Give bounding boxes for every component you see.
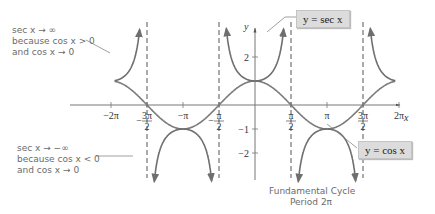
x-tick-label: 2π: [394, 110, 404, 121]
annot-line: and cos x → 0: [17, 165, 100, 176]
annot-line: because cos x > 0: [12, 36, 95, 47]
x-tick-denominator: 2: [289, 121, 294, 132]
legend-cos: y = cos x: [358, 141, 412, 159]
x-tick-denominator: 2: [145, 121, 150, 132]
annotation-sec-positive: sec x → ∞ because cos x > 0 and cos x → …: [12, 25, 95, 58]
annot-line: Fundamental Cycle: [269, 186, 353, 197]
x-tick-label: π: [324, 110, 329, 121]
y-tick-label: −1: [238, 124, 249, 135]
annot-line: because cos x < 0: [17, 154, 100, 165]
x-axis-label: x: [403, 112, 409, 123]
annot-line: and cos x → 0: [12, 47, 95, 58]
sec-branch: [298, 129, 355, 181]
leader-cos: [327, 124, 357, 148]
annotation-sec-negative: sec x → −∞ because cos x < 0 and cos x →…: [17, 143, 100, 176]
x-tick-denominator: 2: [217, 121, 222, 132]
leader-sec: [267, 17, 296, 32]
sec-branch: [154, 129, 211, 181]
annotation-fundamental-cycle: Fundamental Cycle Period 2π: [269, 186, 353, 208]
sec-branch: [370, 29, 395, 81]
x-tick-sign: −: [208, 115, 214, 126]
legend-sec: y = sec x: [296, 10, 350, 28]
x-tick-numerator: 3π: [142, 110, 152, 121]
annot-line: Period 2π: [269, 197, 353, 208]
y-tick-label: −2: [238, 148, 249, 159]
sec-branch: [115, 30, 140, 81]
x-tick-numerator: 3π: [358, 110, 368, 121]
y-axis-label: y: [243, 21, 249, 32]
x-tick-numerator: π: [216, 110, 221, 121]
x-tick-label: −π: [178, 110, 189, 121]
x-tick-label: −2π: [103, 110, 119, 121]
x-tick-numerator: π: [288, 110, 293, 121]
annot-line: sec x → −∞: [17, 143, 100, 154]
annot-line: sec x → ∞: [12, 25, 95, 36]
x-tick-denominator: 2: [361, 121, 366, 132]
y-tick-label: 2: [244, 52, 249, 63]
